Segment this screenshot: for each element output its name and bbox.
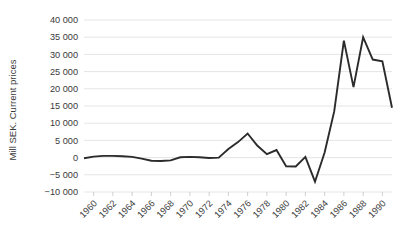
y-tick-label: 20 000: [50, 84, 78, 94]
x-tickmarks: [94, 192, 383, 196]
series-line: [84, 37, 392, 181]
chart-canvas: 40 00035 00030 00025 00020 00015 00010 0…: [0, 0, 404, 238]
y-axis-title: Mill SEK. Current prices: [7, 59, 18, 160]
x-tick-label: 1960: [78, 198, 100, 220]
y-tick-label: −10 000: [45, 187, 78, 197]
x-tick-label: 1990: [366, 198, 388, 220]
y-tick-label: 10 000: [50, 118, 78, 128]
y-tick-label: 15 000: [50, 101, 78, 111]
y-tick-label: 25 000: [50, 67, 78, 77]
x-tick-label: 1970: [174, 198, 196, 220]
y-tick-label: 30 000: [50, 50, 78, 60]
line-chart: 40 00035 00030 00025 00020 00015 00010 0…: [0, 0, 404, 238]
x-tick-label: 1962: [97, 198, 119, 220]
data-series: [84, 37, 392, 181]
y-tick-label: 35 000: [50, 32, 78, 42]
x-tick-label: 1984: [309, 198, 331, 220]
y-axis-tick-labels: 40 00035 00030 00025 00020 00015 00010 0…: [45, 15, 78, 197]
x-tick-label: 1966: [135, 198, 157, 220]
x-tick-label: 1980: [270, 198, 292, 220]
x-tick-label: 1976: [232, 198, 254, 220]
y-tick-label: 5 000: [55, 136, 78, 146]
x-axis-tick-labels: 1960196219641966196819701972197419761978…: [78, 198, 388, 220]
x-tick-label: 1986: [328, 198, 350, 220]
y-tick-label: 40 000: [50, 15, 78, 25]
x-tick-label: 1964: [116, 198, 138, 220]
x-tick-label: 1988: [347, 198, 369, 220]
x-tick-label: 1972: [193, 198, 215, 220]
x-tick-label: 1968: [155, 198, 177, 220]
x-tick-label: 1974: [212, 198, 234, 220]
y-tick-label: 0: [73, 153, 78, 163]
y-tick-label: −5 000: [50, 170, 78, 180]
x-tick-label: 1982: [289, 198, 311, 220]
x-tick-label: 1978: [251, 198, 273, 220]
